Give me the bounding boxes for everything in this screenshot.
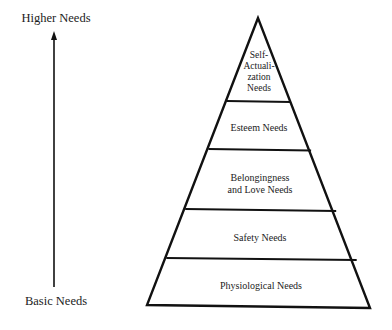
tier-self-actualization-line-1: Self- — [243, 50, 274, 61]
divider-safety-physiological — [166, 258, 356, 260]
tier-physiological-line-1: Physiological Needs — [220, 280, 302, 292]
tier-self-actualization-line-2: Actuali- — [243, 61, 274, 72]
tier-physiological: Physiological Needs — [220, 280, 302, 292]
tier-esteem: Esteem Needs — [231, 122, 288, 134]
divider-esteem-belonging — [208, 149, 311, 151]
needs-axis-arrow — [51, 31, 57, 287]
tier-belongingness-line-1: Belongingness — [228, 172, 293, 184]
tier-self-actualization-line-4: Needs — [243, 83, 274, 94]
divider-belonging-safety — [185, 209, 336, 211]
divider-self-esteem — [227, 101, 291, 102]
tier-belongingness-love: Belongingness and Love Needs — [228, 172, 293, 195]
diagram-svg — [0, 0, 392, 330]
arrow-up-icon — [51, 31, 57, 40]
tier-esteem-line-1: Esteem Needs — [231, 122, 288, 134]
higher-needs-label: Higher Needs — [21, 11, 90, 26]
diagram-canvas: Higher Needs Basic Needs Self- Actuali- … — [0, 0, 392, 330]
tier-belongingness-line-2: and Love Needs — [228, 183, 293, 195]
tier-self-actualization-line-3: zation — [243, 72, 274, 83]
tier-safety-line-1: Safety Needs — [233, 232, 286, 244]
tier-self-actualization: Self- Actuali- zation Needs — [243, 50, 274, 94]
tier-safety: Safety Needs — [233, 232, 286, 244]
basic-needs-label: Basic Needs — [25, 294, 87, 309]
